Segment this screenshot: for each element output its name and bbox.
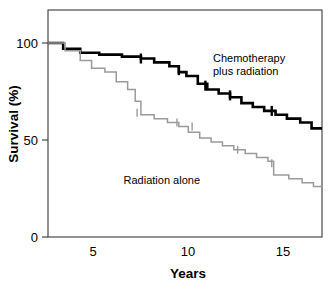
x-axis-tick-labels: 5 10 15 <box>89 244 290 259</box>
y-axis-ticks <box>42 43 48 237</box>
x-axis-title: Years <box>170 266 206 281</box>
plot-frame <box>48 10 322 237</box>
kaplan-meier-chart: 100 50 0 5 10 15 Years Survival (%) Chem… <box>0 0 335 293</box>
x-tick-label-10: 10 <box>181 244 195 259</box>
annotation-chemotherapy-line1: Chemotherapy <box>213 52 286 64</box>
y-tick-label-50: 50 <box>24 133 38 148</box>
annotation-radiation-alone: Radiation alone <box>124 174 200 186</box>
y-tick-label-100: 100 <box>16 36 38 51</box>
y-axis-title: Survival (%) <box>6 85 21 162</box>
survival-curve-figure: 100 50 0 5 10 15 Years Survival (%) Chem… <box>0 0 335 293</box>
x-tick-label-5: 5 <box>89 244 96 259</box>
y-tick-label-0: 0 <box>31 230 38 245</box>
annotation-chemotherapy-line2: plus radiation <box>213 65 278 77</box>
x-tick-label-15: 15 <box>276 244 290 259</box>
